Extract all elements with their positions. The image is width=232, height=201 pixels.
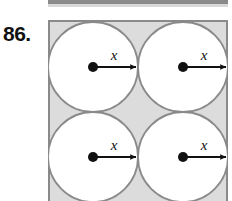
problem-number-label: 86. bbox=[3, 21, 47, 47]
figure-canvas: x x x x bbox=[48, 20, 228, 201]
center-dot-top-right bbox=[178, 62, 188, 72]
radius-label-top-left: x bbox=[110, 47, 118, 63]
geometry-figure: x x x x bbox=[48, 20, 228, 201]
radius-label-top-right: x bbox=[200, 47, 208, 63]
radius-label-bottom-left: x bbox=[110, 137, 118, 153]
radius-label-bottom-right: x bbox=[200, 137, 208, 153]
cropped-figure-fragment-light bbox=[48, 4, 228, 7]
center-dot-top-left bbox=[88, 62, 98, 72]
center-dot-bottom-right bbox=[178, 152, 188, 162]
center-dot-bottom-left bbox=[88, 152, 98, 162]
